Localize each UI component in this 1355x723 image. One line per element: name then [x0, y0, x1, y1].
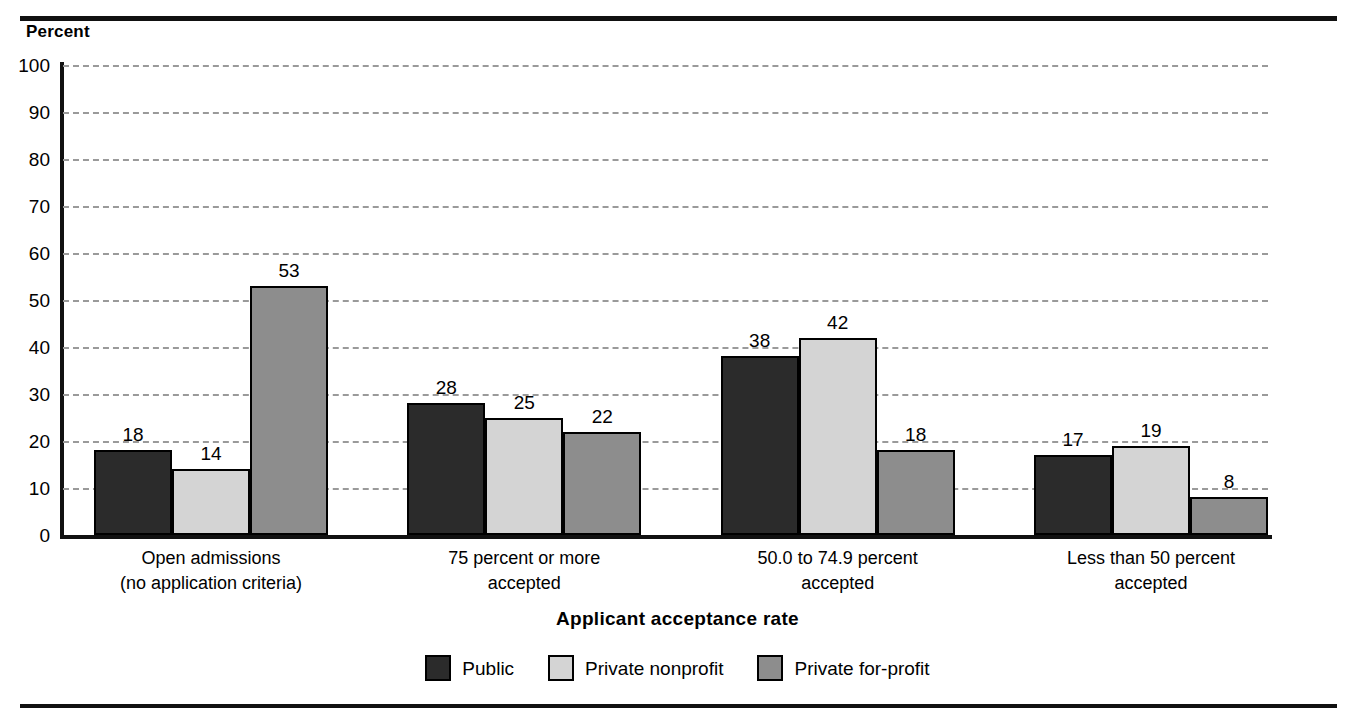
- y-axis-tick-label: 10: [6, 479, 50, 498]
- category-label: 75 percent or moreaccepted: [347, 546, 701, 596]
- bar-value-label: 42: [827, 313, 848, 332]
- bar-value-label: 53: [278, 261, 299, 280]
- legend-item[interactable]: Public: [425, 655, 514, 681]
- bar-value-label: 14: [200, 444, 221, 463]
- bar-value-label: 19: [1140, 421, 1161, 440]
- y-axis-tick-label: 100: [6, 56, 50, 75]
- chart-legend: PublicPrivate nonprofitPrivate for-profi…: [0, 655, 1355, 681]
- x-axis-line: [60, 535, 1272, 539]
- bar[interactable]: [799, 338, 877, 535]
- category-label: 50.0 to 74.9 percentaccepted: [661, 546, 1015, 596]
- y-axis-tick-label: 60: [6, 244, 50, 263]
- y-axis-tick-label: 50: [6, 291, 50, 310]
- bar-value-label: 25: [514, 393, 535, 412]
- category-label-line: accepted: [974, 571, 1328, 596]
- y-axis-tick-label: 80: [6, 150, 50, 169]
- category-label-line: 50.0 to 74.9 percent: [661, 546, 1015, 571]
- bar[interactable]: [563, 432, 641, 535]
- category-label-line: Less than 50 percent: [974, 546, 1328, 571]
- legend-label: Private nonprofit: [585, 659, 723, 678]
- legend-swatch: [548, 655, 574, 681]
- y-axis-unit-caption: Percent: [26, 22, 90, 42]
- legend-label: Public: [462, 659, 514, 678]
- bar-group: 384218: [721, 65, 955, 535]
- chart-page: Percent 1009080706050403020100 181453282…: [0, 0, 1355, 723]
- plot-area: 18145328252238421817198: [63, 65, 1268, 535]
- y-axis-tick-label: 70: [6, 197, 50, 216]
- bar-value-label: 18: [122, 425, 143, 444]
- y-axis-tick-label: 40: [6, 338, 50, 357]
- category-label-line: (no application criteria): [34, 571, 388, 596]
- category-axis-labels: Open admissions(no application criteria)…: [63, 546, 1268, 602]
- bar[interactable]: [94, 450, 172, 535]
- bar-group: 181453: [94, 65, 328, 535]
- category-label-line: accepted: [661, 571, 1015, 596]
- category-label: Less than 50 percentaccepted: [974, 546, 1328, 596]
- bar[interactable]: [485, 418, 563, 536]
- bar-value-label: 8: [1224, 472, 1235, 491]
- bar[interactable]: [407, 403, 485, 535]
- category-label-line: Open admissions: [34, 546, 388, 571]
- bar-value-label: 18: [905, 425, 926, 444]
- legend-item[interactable]: Private for-profit: [757, 655, 929, 681]
- bar-group: 282522: [407, 65, 641, 535]
- legend-label: Private for-profit: [794, 659, 929, 678]
- bar[interactable]: [250, 286, 328, 535]
- x-axis-title: Applicant acceptance rate: [0, 608, 1355, 630]
- bar-value-label: 22: [592, 407, 613, 426]
- bar-value-label: 28: [436, 378, 457, 397]
- bar-value-label: 38: [749, 331, 770, 350]
- category-label: Open admissions(no application criteria): [34, 546, 388, 596]
- category-label-line: 75 percent or more: [347, 546, 701, 571]
- bar-group: 17198: [1034, 65, 1268, 535]
- bar[interactable]: [721, 356, 799, 535]
- legend-item[interactable]: Private nonprofit: [548, 655, 723, 681]
- bar[interactable]: [172, 469, 250, 535]
- y-axis-tick-labels: 1009080706050403020100: [0, 65, 50, 535]
- bar[interactable]: [1112, 446, 1190, 535]
- y-axis-tick-label: 0: [6, 526, 50, 545]
- bar[interactable]: [877, 450, 955, 535]
- bar[interactable]: [1034, 455, 1112, 535]
- top-divider-rule: [20, 16, 1337, 21]
- category-label-line: accepted: [347, 571, 701, 596]
- bar[interactable]: [1190, 497, 1268, 535]
- bottom-divider-rule: [20, 704, 1337, 708]
- bar-groups: 18145328252238421817198: [63, 65, 1268, 535]
- y-axis-tick-label: 30: [6, 385, 50, 404]
- y-axis-tick-label: 90: [6, 103, 50, 122]
- legend-swatch: [757, 655, 783, 681]
- y-axis-tick-label: 20: [6, 432, 50, 451]
- legend-swatch: [425, 655, 451, 681]
- bar-value-label: 17: [1062, 430, 1083, 449]
